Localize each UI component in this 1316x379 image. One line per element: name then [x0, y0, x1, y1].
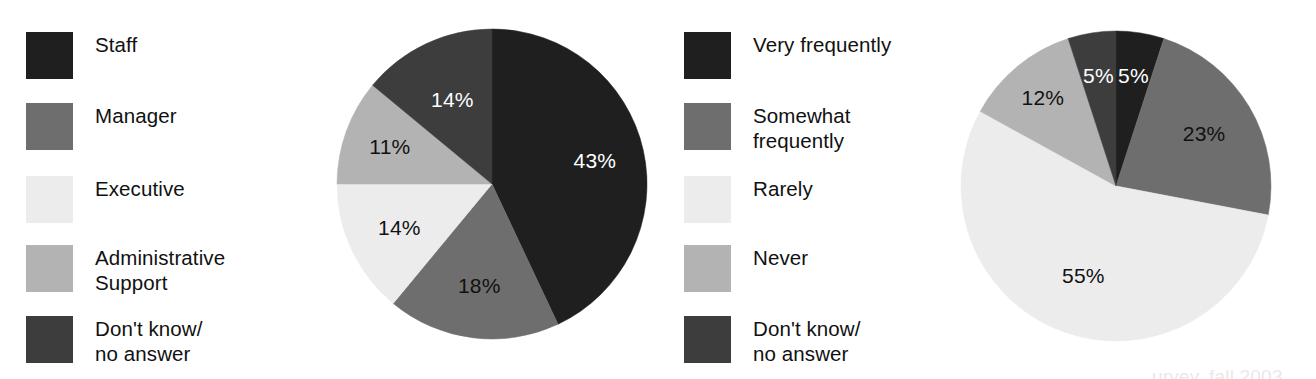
legend-item-label: Administrative Support: [95, 245, 225, 295]
legend-swatch-icon: [684, 103, 731, 150]
frequency-legend: Very frequentlySomewhat frequentlyRarely…: [684, 32, 954, 352]
respondent-role-pie-svg: 43%18%14%11%14%: [336, 28, 648, 340]
source-footnote: urvey, fall 2003: [1152, 366, 1316, 379]
legend-item[interactable]: Never: [684, 245, 808, 292]
pie-slice-value-label: 23%: [1183, 122, 1226, 145]
pie-slice-value-label: 5%: [1083, 64, 1114, 87]
pie-slice-value-label: 43%: [574, 149, 617, 172]
respondent-role-pie: 43%18%14%11%14%: [336, 28, 648, 340]
legend-item-label: Executive: [95, 176, 185, 201]
usage-frequency-pie-svg: 5%23%55%12%5%: [960, 30, 1272, 342]
usage-frequency-pie: 5%23%55%12%5%: [960, 30, 1272, 342]
pie-slice-value-label: 12%: [1022, 86, 1065, 109]
legend-item[interactable]: Rarely: [684, 176, 813, 223]
pie-slice-value-label: 5%: [1118, 64, 1149, 87]
legend-swatch-icon: [26, 316, 73, 363]
legend-swatch-icon: [684, 176, 731, 223]
legend-item[interactable]: Executive: [26, 176, 185, 223]
legend-item[interactable]: Administrative Support: [26, 245, 225, 295]
legend-swatch-icon: [26, 245, 73, 292]
pie-slice-value-label: 14%: [431, 88, 474, 111]
legend-item[interactable]: Don't know/ no answer: [684, 316, 861, 366]
legend-swatch-icon: [684, 32, 731, 79]
pie-slice-value-label: 14%: [378, 216, 421, 239]
legend-item[interactable]: Very frequently: [684, 32, 891, 79]
legend-item-label: Somewhat frequently: [753, 103, 851, 153]
legend-item-label: Staff: [95, 32, 137, 57]
pie-slice-value-label: 18%: [458, 274, 501, 297]
legend-item-label: Manager: [95, 103, 177, 128]
legend-item[interactable]: Don't know/ no answer: [26, 316, 203, 366]
legend-item-label: Very frequently: [753, 32, 891, 57]
legend-item-label: Don't know/ no answer: [753, 316, 861, 366]
legend-item[interactable]: Staff: [26, 32, 137, 79]
pie-slice-value-label: 55%: [1062, 264, 1105, 287]
legend-swatch-icon: [26, 176, 73, 223]
legend-item[interactable]: Manager: [26, 103, 177, 150]
legend-item-label: Rarely: [753, 176, 813, 201]
respondent-role-legend: StaffManagerExecutiveAdministrative Supp…: [26, 32, 286, 352]
legend-swatch-icon: [26, 103, 73, 150]
legend-item-label: Don't know/ no answer: [95, 316, 203, 366]
legend-swatch-icon: [684, 245, 731, 292]
pie-slice-value-label: 11%: [369, 135, 410, 158]
legend-swatch-icon: [684, 316, 731, 363]
legend-item[interactable]: Somewhat frequently: [684, 103, 851, 153]
legend-swatch-icon: [26, 32, 73, 79]
legend-item-label: Never: [753, 245, 808, 270]
